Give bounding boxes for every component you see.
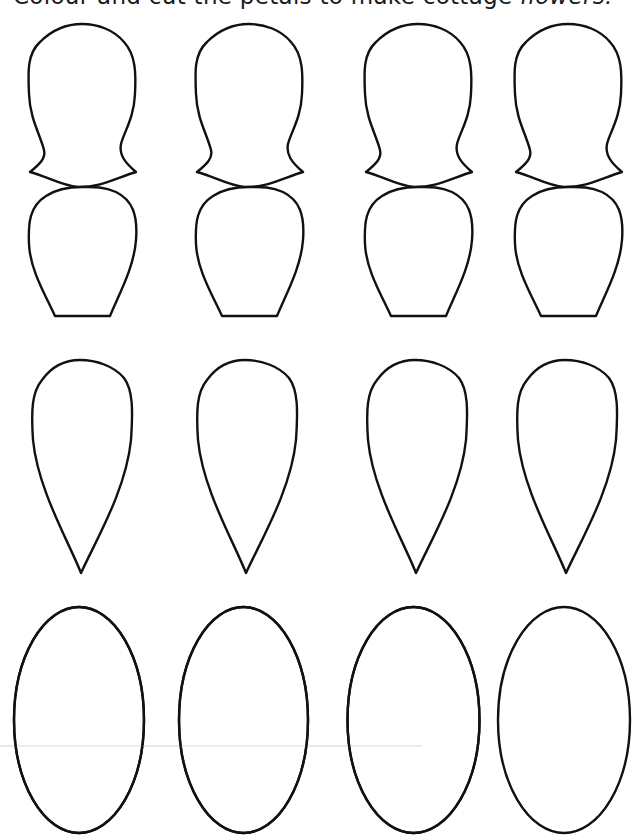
- notched-petal-4[interactable]: [514, 24, 622, 187]
- flat-bottom-petal-2[interactable]: [196, 187, 304, 316]
- flat-bottom-petal-1[interactable]: [29, 187, 137, 316]
- row-notched-petals: [28, 24, 622, 187]
- teardrop-petal-4[interactable]: [517, 360, 617, 573]
- teardrop-petal-2[interactable]: [197, 360, 297, 573]
- row-teardrop-petals: [32, 360, 617, 573]
- teardrop-petal-3[interactable]: [367, 360, 467, 573]
- notched-petal-3[interactable]: [364, 24, 472, 187]
- notched-petal-1[interactable]: [28, 24, 136, 187]
- flat-bottom-petal-3[interactable]: [365, 187, 473, 316]
- teardrop-petal-1[interactable]: [32, 360, 132, 573]
- petal-sheet: [0, 0, 644, 839]
- oval-petal-4[interactable]: [498, 607, 630, 833]
- flat-bottom-petal-4[interactable]: [515, 187, 623, 316]
- row-oval-petals: [14, 607, 630, 833]
- notched-petal-2[interactable]: [195, 24, 303, 187]
- row-flat-bottom-petals: [29, 187, 623, 316]
